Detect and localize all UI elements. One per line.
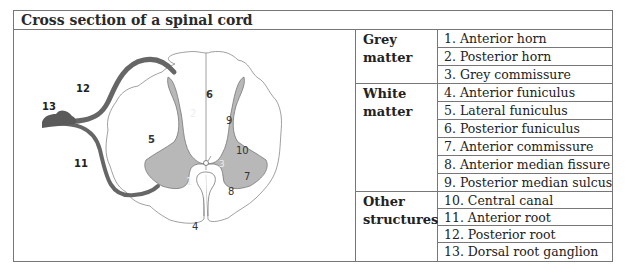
legend-item: 1. Anterior horn bbox=[438, 30, 613, 48]
label-11: 11 bbox=[74, 158, 88, 169]
label-1: 1 bbox=[186, 176, 192, 187]
legend-item: 8. Anterior median fissure bbox=[438, 156, 613, 174]
legend-item: 2. Posterior horn bbox=[438, 48, 613, 66]
legend-item: 4. Anterior funiculus bbox=[438, 84, 613, 102]
central-canal bbox=[204, 161, 209, 166]
legend-group-grey-matter: Grey matter 1. Anterior horn 2. Posterio… bbox=[356, 30, 613, 84]
label-9: 9 bbox=[226, 115, 232, 126]
legend-item: 9. Posterior median sulcus bbox=[438, 174, 613, 192]
category-line: White bbox=[363, 85, 437, 103]
label-5: 5 bbox=[148, 134, 155, 145]
legend-items: 4. Anterior funiculus 5. Lateral funicul… bbox=[438, 84, 613, 192]
spinal-cord-svg: 1 2 3 4 5 6 7 8 9 10 11 12 13 bbox=[14, 30, 355, 261]
legend-item: 7. Anterior commissure bbox=[438, 138, 613, 156]
legend-items: 1. Anterior horn 2. Posterior horn 3. Gr… bbox=[438, 30, 613, 84]
legend-item: 11. Anterior root bbox=[438, 209, 613, 226]
legend-item: 6. Posterior funiculus bbox=[438, 120, 613, 138]
label-13: 13 bbox=[42, 101, 56, 112]
label-3: 3 bbox=[219, 159, 225, 169]
legend-item: 5. Lateral funiculus bbox=[438, 102, 613, 120]
category-line: Grey bbox=[363, 31, 437, 49]
legend-category: Other structures bbox=[356, 192, 438, 261]
legend-item: 3. Grey commissure bbox=[438, 66, 613, 84]
label-12: 12 bbox=[76, 83, 90, 94]
spinal-cord-diagram: 1 2 3 4 5 6 7 8 9 10 11 12 13 bbox=[14, 30, 355, 261]
legend-category: White matter bbox=[356, 84, 438, 191]
white-matter-outline bbox=[106, 51, 281, 223]
legend-item: 13. Dorsal root ganglion bbox=[438, 243, 613, 261]
legend-table: Grey matter 1. Anterior horn 2. Posterio… bbox=[355, 30, 613, 261]
label-6: 6 bbox=[206, 89, 213, 100]
category-line: matter bbox=[363, 49, 437, 67]
label-4: 4 bbox=[192, 221, 198, 232]
legend-group-white-matter: White matter 4. Anterior funiculus 5. La… bbox=[356, 84, 613, 192]
legend-category: Grey matter bbox=[356, 30, 438, 83]
label-10: 10 bbox=[236, 145, 249, 156]
label-7: 7 bbox=[244, 171, 250, 182]
legend-item: 12. Posterior root bbox=[438, 226, 613, 243]
label-8: 8 bbox=[228, 186, 234, 197]
category-line: matter bbox=[363, 103, 437, 121]
figure-title: Cross section of a spinal cord bbox=[14, 11, 612, 30]
label-2: 2 bbox=[190, 108, 196, 119]
category-line: structures bbox=[363, 211, 437, 229]
legend-items: 10. Central canal 11. Anterior root 12. … bbox=[438, 192, 613, 261]
legend-item: 10. Central canal bbox=[438, 192, 613, 209]
category-line: Other bbox=[363, 193, 437, 211]
figure-frame: Cross section of a spinal cord 1 2 3 4 bbox=[13, 10, 613, 262]
legend-group-other-structures: Other structures 10. Central canal 11. A… bbox=[356, 192, 613, 261]
